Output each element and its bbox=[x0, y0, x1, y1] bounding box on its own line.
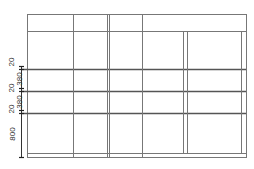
elevation-drawing bbox=[0, 0, 254, 169]
dimension-label: 20 bbox=[8, 105, 16, 114]
outer-frame bbox=[28, 15, 247, 158]
dimension-label: 20 bbox=[8, 58, 16, 67]
vertical-lines bbox=[74, 14, 242, 157]
horizontal-lines bbox=[22, 32, 246, 154]
frame-rect bbox=[28, 15, 247, 158]
dimension-label: 20 bbox=[8, 84, 16, 93]
dimension-label: 800 bbox=[8, 127, 16, 140]
